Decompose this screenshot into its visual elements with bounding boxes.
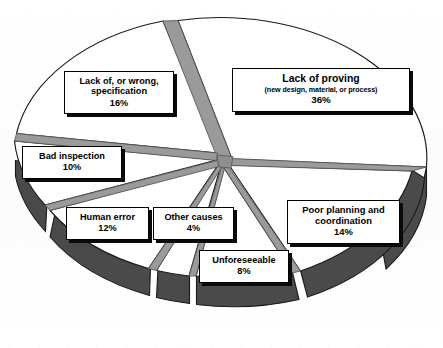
- callout-subtitle: specification: [69, 86, 169, 96]
- callout-title: Poor planning and: [292, 205, 395, 216]
- callout-title: Other causes: [157, 212, 230, 222]
- callout-title: Bad inspection: [27, 151, 117, 161]
- callout-human-error[interactable]: Human error 12%: [66, 207, 149, 240]
- callout-poor-planning[interactable]: Poor planning and coordination 14%: [287, 200, 400, 244]
- callout-percent: 10%: [27, 162, 117, 172]
- callout-bad-inspection[interactable]: Bad inspection 10%: [22, 146, 122, 179]
- callout-subtitle: coordination: [292, 216, 395, 227]
- callout-percent: 4%: [157, 223, 230, 233]
- callout-percent: 36%: [237, 95, 405, 106]
- callout-percent: 8%: [203, 266, 285, 276]
- callout-subtitle: (new design, material, or process): [237, 86, 405, 94]
- callout-title: Lack of, or wrong,: [69, 76, 169, 86]
- callout-lack-of-proving[interactable]: Lack of proving (new design, material, o…: [232, 68, 410, 112]
- callout-title: Human error: [70, 212, 145, 222]
- callout-percent: 14%: [292, 227, 395, 238]
- pie-chart-figure: Lack of proving (new design, material, o…: [0, 0, 443, 348]
- callout-unforeseeable[interactable]: Unforeseeable 8%: [199, 250, 289, 283]
- callout-specification[interactable]: Lack of, or wrong, specification 16%: [64, 71, 174, 114]
- callout-title: Unforeseeable: [203, 255, 285, 265]
- callout-other-causes[interactable]: Other causes 4%: [153, 207, 234, 240]
- callout-title: Lack of proving: [237, 73, 405, 85]
- callout-percent: 16%: [69, 98, 169, 108]
- callout-percent: 12%: [70, 223, 145, 233]
- pie-center-seam: [217, 155, 233, 168]
